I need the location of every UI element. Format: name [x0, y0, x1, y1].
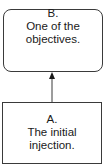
- node-a-initial-injection: A. The initial injection.: [2, 102, 102, 164]
- arrow-head-icon: [49, 72, 55, 79]
- node-a-text-line-2: injection.: [3, 139, 101, 152]
- node-b-text-line-1: One of the: [4, 20, 102, 33]
- node-b-text-line-2: objectives.: [4, 33, 102, 46]
- node-a-label: A.: [3, 113, 101, 126]
- node-a-text-line-1: The initial: [3, 126, 101, 139]
- node-b-objective: B. One of the objectives.: [3, 9, 103, 72]
- node-b-label: B.: [4, 7, 102, 20]
